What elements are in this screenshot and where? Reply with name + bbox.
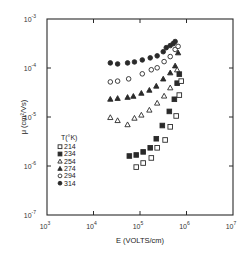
legend-item-234: 234 bbox=[58, 150, 76, 157]
triangle-open-marker bbox=[168, 85, 173, 90]
triangle-open-marker bbox=[58, 159, 62, 163]
circle-filled-marker bbox=[140, 58, 145, 63]
legend-title: T(°K) bbox=[61, 134, 77, 142]
square-open-marker bbox=[174, 114, 179, 119]
series-234 bbox=[127, 72, 182, 158]
square-open-marker bbox=[163, 138, 168, 143]
triangle-filled-marker bbox=[131, 94, 136, 99]
circle-open-marker bbox=[155, 65, 160, 70]
x-axis-title: E (VOLTS/cm) bbox=[116, 236, 165, 245]
square-filled-marker bbox=[160, 123, 165, 128]
legend-item-314: 314 bbox=[58, 180, 76, 187]
circle-open-marker bbox=[126, 77, 131, 82]
legend-item-254: 254 bbox=[58, 158, 76, 165]
mobility-vs-field-chart: 103104105106107 10-710-610-510-410-3 T(°… bbox=[0, 0, 251, 257]
circle-open-marker bbox=[168, 54, 173, 59]
square-open-marker bbox=[177, 93, 182, 98]
triangle-filled-marker bbox=[125, 95, 130, 100]
legend: T(°K)214234254274294314 bbox=[58, 134, 78, 187]
triangle-filled-marker bbox=[147, 87, 152, 92]
square-filled-marker bbox=[172, 97, 177, 102]
circle-filled-marker bbox=[161, 49, 166, 54]
legend-label: 274 bbox=[64, 165, 76, 172]
square-open-marker bbox=[141, 161, 146, 166]
legend-label: 314 bbox=[64, 180, 76, 187]
triangle-filled-marker bbox=[168, 70, 173, 75]
triangle-open-marker bbox=[147, 107, 152, 112]
series-314 bbox=[108, 39, 177, 66]
circle-open-marker bbox=[58, 174, 62, 178]
circle-open-marker bbox=[176, 44, 181, 49]
triangle-open-marker bbox=[155, 100, 160, 105]
square-filled-marker bbox=[154, 136, 159, 141]
square-filled-marker bbox=[127, 154, 132, 159]
legend-item-294: 294 bbox=[58, 172, 76, 179]
square-open-marker bbox=[149, 156, 154, 161]
triangle-filled-marker bbox=[139, 90, 144, 95]
legend-label: 254 bbox=[64, 158, 76, 165]
x-tick-label: 106 bbox=[179, 220, 190, 230]
legend-item-214: 214 bbox=[58, 143, 76, 150]
square-filled-marker bbox=[167, 109, 172, 114]
square-open-marker bbox=[179, 79, 184, 84]
square-open-marker bbox=[155, 146, 160, 151]
square-filled-marker bbox=[58, 152, 62, 156]
triangle-filled-marker bbox=[58, 166, 62, 170]
square-filled-marker bbox=[141, 150, 146, 155]
circle-filled-marker bbox=[173, 39, 178, 44]
legend-label: 294 bbox=[64, 172, 76, 179]
x-tick-label: 107 bbox=[226, 220, 237, 230]
square-open-marker bbox=[58, 145, 62, 149]
circle-open-marker bbox=[162, 59, 167, 64]
x-tick-label: 105 bbox=[133, 220, 144, 230]
circle-filled-marker bbox=[148, 56, 153, 61]
circle-open-marker bbox=[108, 80, 113, 85]
triangle-filled-marker bbox=[108, 96, 113, 101]
circle-filled-marker bbox=[125, 61, 130, 66]
circle-filled-marker bbox=[132, 60, 137, 65]
y-axis-title: μ (cm²/Vs) bbox=[19, 99, 28, 134]
square-filled-marker bbox=[177, 72, 182, 77]
triangle-open-marker bbox=[132, 115, 137, 120]
triangle-filled-marker bbox=[115, 96, 120, 101]
x-tick-label: 104 bbox=[86, 220, 97, 230]
y-axis: 10-710-610-510-410-3 bbox=[24, 13, 233, 219]
triangle-open-marker bbox=[139, 112, 144, 117]
circle-filled-marker bbox=[115, 62, 120, 67]
circle-filled-marker bbox=[108, 61, 113, 66]
x-tick-label: 103 bbox=[40, 220, 51, 230]
legend-item-274: 274 bbox=[58, 165, 76, 172]
legend-label: 234 bbox=[64, 150, 76, 157]
square-filled-marker bbox=[148, 146, 153, 151]
square-filled-marker bbox=[134, 153, 139, 158]
triangle-filled-marker bbox=[154, 83, 159, 88]
triangle-open-marker bbox=[161, 93, 166, 98]
triangle-open-marker bbox=[115, 118, 120, 123]
triangle-open-marker bbox=[125, 122, 130, 127]
triangle-open-marker bbox=[108, 115, 113, 120]
x-axis: 103104105106107 bbox=[40, 19, 237, 230]
y-tick-label: 10-7 bbox=[24, 209, 36, 219]
data-points bbox=[108, 39, 184, 169]
circle-open-marker bbox=[149, 67, 154, 72]
circle-filled-marker bbox=[155, 54, 160, 59]
circle-open-marker bbox=[140, 72, 145, 77]
y-tick-label: 10-4 bbox=[24, 62, 36, 72]
legend-label: 214 bbox=[64, 143, 76, 150]
circle-open-marker bbox=[115, 79, 120, 84]
y-tick-label: 10-3 bbox=[24, 13, 36, 23]
square-open-marker bbox=[168, 125, 173, 130]
circle-filled-marker bbox=[58, 181, 62, 185]
triangle-filled-marker bbox=[161, 76, 166, 81]
square-open-marker bbox=[134, 165, 139, 170]
y-tick-label: 10-6 bbox=[24, 160, 36, 170]
